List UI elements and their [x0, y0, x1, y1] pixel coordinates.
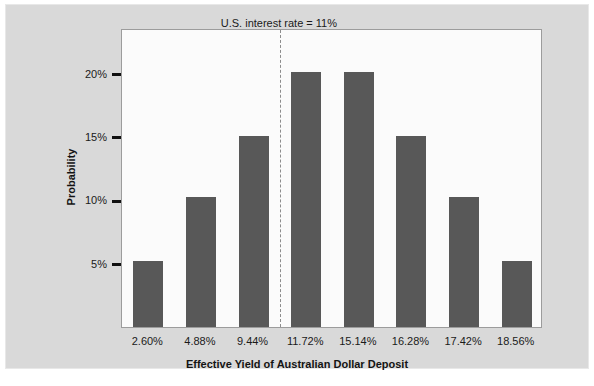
bar-4.88: [186, 197, 216, 327]
us-interest-rate-line: [280, 30, 281, 327]
figure: 5%10%15%20% 2.60%4.88%9.44%11.72%15.14%1…: [0, 0, 594, 386]
x-tick-label-15.14: 15.14%: [328, 335, 388, 347]
x-tick-label-11.72: 11.72%: [275, 335, 335, 347]
bar-18.56: [502, 261, 532, 327]
chart-canvas: 5%10%15%20% 2.60%4.88%9.44%11.72%15.14%1…: [5, 4, 589, 369]
x-axis-title: Effective Yield of Australian Dollar Dep…: [6, 358, 588, 370]
x-tick-label-9.44: 9.44%: [223, 335, 283, 347]
x-tick-label-18.56: 18.56%: [486, 335, 546, 347]
us-interest-rate-annotation-label: U.S. interest rate = 11%: [221, 17, 337, 29]
bar-9.44: [239, 136, 269, 327]
y-tick-mark-15: [112, 136, 121, 139]
bar-15.14: [344, 72, 374, 327]
x-tick-label-2.60: 2.60%: [117, 335, 177, 347]
x-tick-label-17.42: 17.42%: [433, 335, 493, 347]
y-tick-label-20: 20%: [63, 68, 107, 80]
bar-11.72: [291, 72, 321, 327]
y-tick-mark-10: [112, 200, 121, 203]
plot-area: [121, 29, 542, 328]
y-tick-label-5: 5%: [63, 258, 107, 270]
y-axis-title: Probability: [65, 117, 77, 237]
x-tick-label-4.88: 4.88%: [170, 335, 230, 347]
x-tick-label-16.28: 16.28%: [380, 335, 440, 347]
bar-16.28: [396, 136, 426, 327]
bar-17.42: [449, 197, 479, 327]
bar-2.60: [133, 261, 163, 327]
y-tick-mark-20: [112, 73, 121, 76]
y-tick-mark-5: [112, 263, 121, 266]
